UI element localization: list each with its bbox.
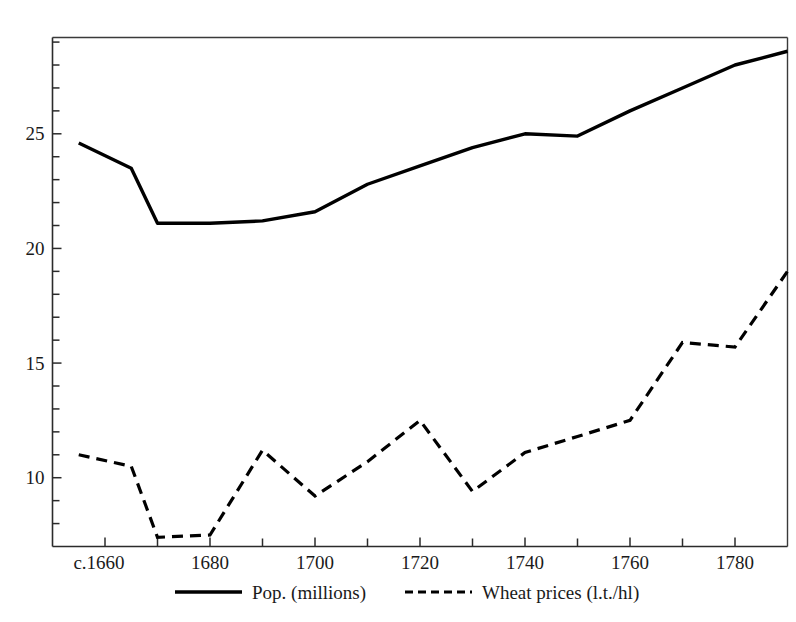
y-tick-label: 15 [26, 353, 45, 374]
data-series-group [79, 51, 788, 537]
line-chart: 25201510 c.1660168017001720174017601780 … [0, 0, 796, 622]
x-axis-ticks [105, 538, 735, 547]
y-tick-label: 25 [26, 123, 45, 144]
x-tick-label: 1700 [296, 552, 334, 573]
legend-entry-label: Pop. (millions) [252, 582, 366, 604]
y-tick-label: 20 [26, 238, 45, 259]
series-line-wheat-prices [79, 271, 788, 537]
chart-figure: 25201510 c.1660168017001720174017601780 … [0, 0, 796, 622]
x-tick-label: 1760 [611, 552, 649, 573]
series-line-population [79, 51, 788, 223]
y-axis-tick-labels: 25201510 [26, 123, 45, 488]
y-axis-ticks [53, 42, 62, 523]
x-tick-label: 1780 [716, 552, 754, 573]
y-tick-label: 10 [26, 467, 45, 488]
x-tick-label: 1720 [401, 552, 439, 573]
x-tick-label: 1680 [191, 552, 229, 573]
x-tick-label: c.1660 [73, 552, 124, 573]
chart-legend: Pop. (millions)Wheat prices (l.t./hl) [175, 582, 639, 604]
legend-entry-label: Wheat prices (l.t./hl) [482, 582, 639, 604]
x-tick-label: 1740 [506, 552, 544, 573]
plot-frame [53, 38, 788, 547]
x-axis-tick-labels: c.1660168017001720174017601780 [73, 552, 754, 573]
